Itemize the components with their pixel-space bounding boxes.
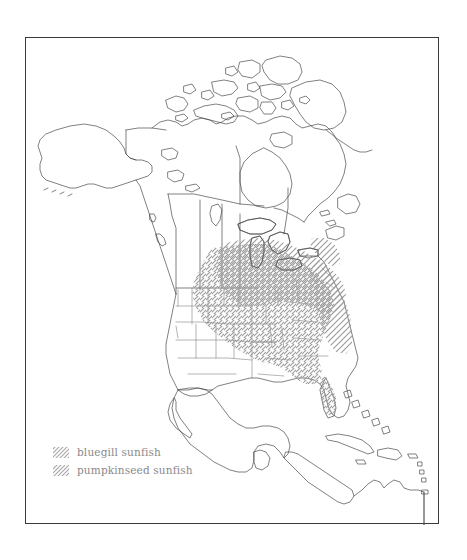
alaska-outline [38, 124, 152, 188]
somerset-island [260, 102, 276, 114]
canada-nunavut-line [236, 146, 240, 204]
st-lawrence [274, 208, 304, 222]
range-map-figure: bluegill sunfish pumpkinseed sunfish [0, 0, 467, 560]
arctic-islet-b [202, 90, 214, 100]
great-bear-lake [162, 148, 178, 160]
devon-island [260, 84, 286, 100]
bahamas-b [362, 410, 370, 418]
yucatan [254, 450, 270, 470]
canada-territory-line [168, 194, 264, 206]
prince-of-wales-island [236, 96, 258, 112]
ellesmere-island [262, 56, 302, 84]
southampton-island [270, 132, 292, 148]
anticosti [320, 210, 330, 216]
legend-item-pumpkinseed: pumpkinseed sunfish [53, 462, 233, 479]
nova-scotia [326, 226, 344, 240]
legend-item-bluegill: bluegill sunfish [53, 444, 233, 461]
bahamas-a [352, 400, 360, 408]
newfoundland [338, 194, 360, 214]
puerto-rico [408, 454, 418, 458]
hudson-bay [240, 148, 292, 208]
range-overlays [166, 218, 366, 428]
victoria-island [194, 104, 238, 124]
banks-island [166, 96, 188, 112]
bluegill-swatch-icon [53, 447, 69, 458]
baja-california [168, 398, 192, 438]
jamaica [356, 460, 366, 464]
legend: bluegill sunfish pumpkinseed sunfish [53, 444, 233, 480]
arctic-islet-a [226, 66, 238, 76]
bluegill-range-florida [320, 376, 336, 416]
labrador-coast [304, 130, 346, 222]
baffin-island [290, 80, 346, 130]
central-america [284, 452, 354, 504]
arctic-islet-h [176, 114, 188, 122]
arctic-islet-g [222, 112, 234, 120]
hispaniola [378, 448, 402, 460]
south-america-north [354, 480, 424, 525]
arctic-islet-c [184, 84, 196, 94]
canada-arctic-coast [152, 116, 372, 152]
alaska-border [126, 130, 136, 160]
bahamas-c [372, 418, 380, 426]
lesser-antilles-b [420, 470, 424, 474]
vancouver-island [156, 234, 166, 246]
arctic-islet-f [300, 96, 310, 104]
lake-winnipeg [210, 204, 222, 226]
alaska-coast-ne [126, 128, 166, 130]
lesser-antilles-c [422, 478, 426, 482]
aleutian-islands [44, 188, 72, 196]
us-west-coast [166, 294, 178, 390]
cuba [326, 434, 374, 454]
lesser-antilles-a [418, 462, 422, 466]
great-slave-lake [168, 170, 184, 182]
axel-heiberg-island [238, 60, 260, 78]
pei-island [326, 220, 336, 226]
map-frame: bluegill sunfish pumpkinseed sunfish [25, 37, 439, 524]
alaska-panhandle [136, 180, 152, 222]
melville-island [212, 80, 238, 96]
arctic-islet-e [282, 100, 294, 110]
legend-label-bluegill: bluegill sunfish [77, 447, 161, 458]
pumpkinseed-swatch-icon [53, 465, 69, 476]
lake-athabasca [186, 184, 200, 192]
canada-province-bc-ab [168, 194, 176, 294]
bc-coast [152, 222, 176, 294]
legend-label-pumpkinseed: pumpkinseed sunfish [77, 465, 193, 476]
arctic-islet-d [248, 82, 260, 92]
bahamas-e [382, 426, 390, 434]
